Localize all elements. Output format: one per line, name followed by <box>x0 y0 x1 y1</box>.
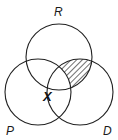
label-x: X <box>42 89 53 104</box>
label-d: D <box>103 124 112 138</box>
circle-p <box>5 59 71 125</box>
venn-diagram: R P D X <box>0 0 118 140</box>
label-p: P <box>6 124 14 138</box>
label-r: R <box>54 5 63 19</box>
